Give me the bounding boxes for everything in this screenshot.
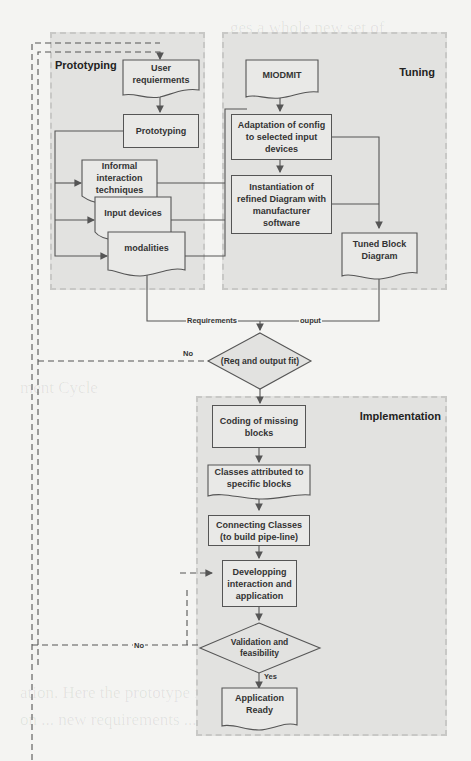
edge-label-yes: Yes (263, 672, 278, 681)
node-connecting-classes: Connecting Classes (to build pipe-line) (208, 515, 310, 546)
decision-validation-feasibility-label: Validation and feasibility (225, 637, 294, 659)
node-instantiation: Instantiation of refined Diagram with ma… (231, 175, 332, 234)
decision-req-output-fit: (Req and output fit) (208, 350, 312, 372)
node-modalities: modalities (108, 232, 185, 272)
node-application-ready-label: Application Ready (225, 692, 294, 716)
node-user-requirements-label: User requierments (126, 62, 196, 86)
node-coding-missing-blocks-label: Coding of missing blocks (216, 415, 302, 439)
node-input-devices-label: Input devices (104, 207, 162, 219)
node-instantiation-label: Instantiation of refined Diagram with ma… (235, 181, 328, 229)
edge-label-no-fit: No (182, 349, 194, 358)
node-tuned-block-diagram: Tuned Block Diagram (342, 233, 417, 275)
edge-label-output: ouput (299, 316, 322, 325)
node-tuned-block-diagram-label: Tuned Block Diagram (345, 238, 414, 262)
edge-label-no-validation: No (133, 641, 145, 650)
node-prototyping-label: Prototyping (136, 125, 187, 137)
node-informal-interaction-label: Informal interaction techniques (85, 160, 154, 196)
node-informal-interaction: Informal interaction techniques (82, 160, 157, 200)
node-modalities-label: modalities (124, 242, 169, 254)
node-developing-interaction-label: Developping interaction and application (226, 566, 293, 602)
node-connecting-classes-label: Connecting Classes (to build pipe-line) (212, 519, 306, 543)
node-classes-attributed: Classes attributed to specific blocks (208, 465, 310, 498)
node-miodmit-label: MIODMIT (263, 69, 302, 81)
node-coding-missing-blocks: Coding of missing blocks (212, 405, 306, 448)
node-miodmit: MIODMIT (246, 60, 318, 98)
node-prototyping: Prototyping (123, 114, 199, 148)
node-adaptation-label: Adaptation of config to selected input d… (235, 119, 328, 155)
node-classes-attributed-label: Classes attributed to specific blocks (211, 466, 307, 490)
decision-validation-feasibility: Validation and feasibility (222, 634, 297, 662)
node-input-devices: Input devices (95, 197, 171, 237)
node-application-ready: Application Ready (222, 688, 297, 728)
decision-req-output-fit-label: (Req and output fit) (221, 355, 299, 367)
node-user-requirements: User requierments (123, 60, 199, 96)
edge-label-requirements: Requirements (186, 316, 238, 325)
node-adaptation: Adaptation of config to selected input d… (231, 114, 332, 160)
node-developing-interaction: Developping interaction and application (222, 560, 297, 607)
